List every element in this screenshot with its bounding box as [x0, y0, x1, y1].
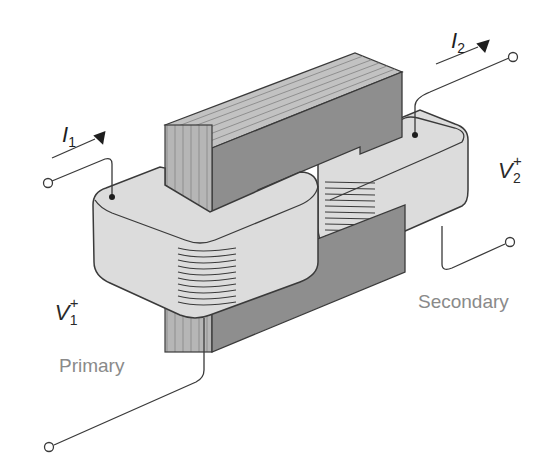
primary-polarity-dot [109, 194, 115, 200]
current-i2-label: I2 [451, 28, 465, 56]
primary-terminal-bottom [45, 443, 54, 452]
voltage-v2-label: V + 2 [498, 158, 513, 184]
transformer-diagram: I1 I2 V + 2 V + 1 Primary Secondary [0, 0, 545, 461]
secondary-bottom-lead [442, 226, 505, 269]
transformer-illustration [0, 0, 545, 461]
i1-arrowhead-icon [93, 131, 109, 147]
secondary-terminal-bottom [506, 238, 515, 247]
primary-terminal-top [44, 179, 53, 188]
i2-arrowhead-icon [476, 39, 493, 55]
voltage-v1-label: V + 1 [55, 300, 70, 326]
current-i1-label: I1 [62, 122, 76, 150]
secondary-polarity-dot [412, 132, 418, 138]
secondary-terminal-top [509, 53, 518, 62]
secondary-label: Secondary [418, 291, 509, 313]
primary-label: Primary [59, 355, 124, 377]
